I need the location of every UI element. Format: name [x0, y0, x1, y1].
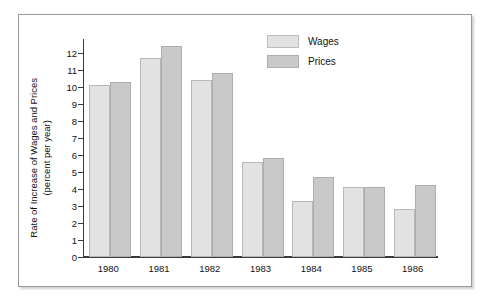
y-tick-8: 8: [19, 121, 77, 122]
y-tick-5: 5: [19, 172, 77, 173]
bar-prices-1983: [263, 158, 284, 257]
y-tick-0: 0: [19, 257, 77, 258]
legend-swatch-prices: [267, 55, 299, 68]
y-tick-2: 2: [19, 223, 77, 224]
legend-label-prices: Prices: [308, 56, 336, 67]
y-tick-1: 1: [19, 240, 77, 241]
y-tick-label: 2: [57, 219, 77, 229]
bar-wages-1984: [292, 201, 313, 257]
legend-swatch-wages: [267, 35, 299, 48]
y-tick-9: 9: [19, 104, 77, 105]
y-tick-label: 10: [57, 83, 77, 93]
legend-label-wages: Wages: [308, 36, 339, 47]
bar-prices-1980: [110, 82, 131, 257]
y-tick-4: 4: [19, 189, 77, 190]
x-axis-label-1986: 1986: [383, 263, 443, 274]
bar-group-1980: [89, 39, 131, 257]
y-tick-6: 6: [19, 155, 77, 156]
bar-prices-1984: [313, 177, 334, 257]
chart-plot-area: Rate of Increase of Wages and Prices (pe…: [19, 15, 471, 286]
y-tick-mark: [78, 257, 84, 258]
y-tick-7: 7: [19, 138, 77, 139]
y-tick-label: 12: [57, 49, 77, 59]
y-tick-label: 0: [57, 253, 77, 263]
y-tick-label: 3: [57, 202, 77, 212]
y-tick-label: 5: [57, 168, 77, 178]
bar-wages-1986: [394, 209, 415, 257]
bar-wages-1981: [140, 58, 161, 257]
bar-group-1982: [191, 39, 233, 257]
bar-wages-1983: [242, 162, 263, 257]
y-tick-label: 6: [57, 151, 77, 161]
y-axis-title: Rate of Increase of Wages and Prices (pe…: [28, 58, 54, 258]
bar-wages-1982: [191, 80, 212, 257]
y-axis-title-line-1: Rate of Increase of Wages and Prices: [28, 58, 41, 258]
y-tick-label: 11: [57, 66, 77, 76]
chart-frame: Rate of Increase of Wages and Prices (pe…: [18, 14, 472, 287]
y-tick-3: 3: [19, 206, 77, 207]
y-tick-10: 10: [19, 87, 77, 88]
bar-groups: [83, 39, 438, 257]
y-tick-11: 11: [19, 70, 77, 71]
y-tick-label: 7: [57, 134, 77, 144]
chart-legend: Wages Prices: [267, 35, 339, 75]
y-axis-title-line-2: (percent per year): [41, 58, 54, 258]
bar-prices-1986: [415, 185, 436, 257]
bar-wages-1980: [89, 85, 110, 257]
legend-item-wages: Wages: [267, 35, 339, 48]
bar-group-1985: [343, 39, 385, 257]
legend-item-prices: Prices: [267, 55, 339, 68]
y-tick-12: 12: [19, 53, 77, 54]
bar-prices-1982: [212, 73, 233, 257]
y-tick-label: 8: [57, 117, 77, 127]
bar-wages-1985: [343, 187, 364, 257]
bar-group-1986: [394, 39, 436, 257]
y-tick-label: 4: [57, 185, 77, 195]
bar-group-1981: [140, 39, 182, 257]
y-tick-label: 9: [57, 100, 77, 110]
y-tick-label: 1: [57, 236, 77, 246]
bar-prices-1985: [364, 187, 385, 257]
bar-prices-1981: [161, 46, 182, 257]
